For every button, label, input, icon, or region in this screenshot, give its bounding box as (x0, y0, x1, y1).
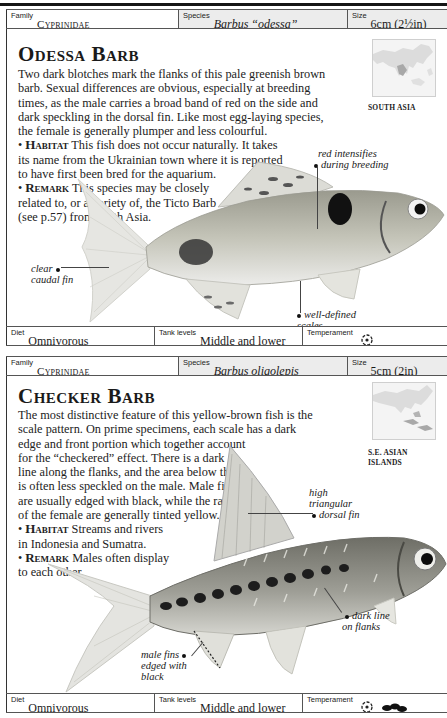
tank-levels-value: Middle and lower (200, 701, 285, 712)
species-cell: Species Barbus “odessa” (178, 10, 347, 28)
temperament-label: Temperament (307, 328, 353, 337)
temperament-cell: Temperament (302, 327, 447, 345)
peaceful-fish-icon (361, 334, 373, 345)
checker-barb-illustration (44, 446, 447, 696)
family-label: Family (11, 11, 33, 20)
tank-levels-label: Tank levels (159, 695, 196, 704)
species-label: Species (183, 358, 210, 367)
description-line: The most distinctive feature of this yel… (18, 408, 313, 422)
description-line: dark speckling in the dorsal fin. Like m… (18, 110, 325, 124)
family-label: Family (11, 358, 33, 367)
species-value: Barbus “odessa” (214, 17, 298, 28)
size-label: Size (352, 11, 367, 20)
callout-dorsal-fin: high triangular dorsal fin (309, 487, 360, 520)
leader-dot-icon (345, 615, 349, 619)
diet-cell: Diet Omnivorous (6, 327, 154, 345)
family-value: Cyprinidae (37, 365, 89, 375)
shoal-fish-icon (381, 703, 409, 712)
map-region-label: SOUTH ASIA (368, 103, 416, 113)
species-title: Odessa Barb (18, 42, 139, 67)
peaceful-fish-icon (361, 701, 373, 712)
callout-male-fins: male fins edged with black (141, 649, 189, 682)
leader-dot-icon (312, 514, 316, 518)
leader-dot-icon (297, 314, 301, 318)
description-line: the female is generally plumper and less… (18, 124, 325, 138)
species-cell: Species Barbus oligolepis (178, 357, 347, 375)
map-se-asia-icon (372, 382, 436, 440)
habitat-paragraph: • Habitat This fish does not occur natur… (18, 138, 325, 152)
care-bar: Diet Omnivorous Tank levels Middle and l… (6, 693, 447, 713)
callout-red-intensifies: red intensifies during breeding (311, 148, 389, 170)
diet-cell: Diet Omnivorous (6, 694, 154, 712)
callout-dark-line-flanks: dark line on flanks (342, 610, 390, 632)
description-line: times, as the male carries a broad band … (18, 96, 325, 110)
tank-levels-cell: Tank levels Middle and lower (154, 327, 302, 345)
care-bar: Diet Omnivorous Tank levels Middle and l… (6, 326, 447, 346)
description-line: scale pattern. On prime specimens, each … (18, 422, 313, 436)
family-value: Cyprinidae (37, 18, 89, 28)
leader-dot-icon (182, 654, 186, 658)
classification-bar: Family Cyprinidae Species Barbus “odessa… (6, 9, 447, 29)
diet-value: Omnivorous (28, 701, 88, 712)
diet-label: Diet (11, 695, 24, 704)
leader-line (317, 165, 318, 229)
diet-label: Diet (11, 328, 24, 337)
leader-line (61, 267, 109, 268)
leader-line (300, 281, 301, 313)
leader-dot-icon (56, 268, 60, 272)
tank-levels-value: Middle and lower (200, 334, 285, 345)
description-line: barb. Sexual differences are obvious, es… (18, 81, 325, 95)
diet-value: Omnivorous (28, 334, 88, 345)
leader-line (248, 513, 313, 514)
description-line: Two dark blotches mark the flanks of thi… (18, 67, 325, 81)
size-value: 5cm (2in) (371, 364, 418, 375)
size-value: 6cm (2½in) (371, 17, 427, 28)
habitat-keyword: Habitat (25, 137, 68, 152)
size-cell: Size 6cm (2½in) (347, 10, 447, 28)
temperament-label: Temperament (307, 695, 353, 704)
top-rule (0, 3, 447, 6)
family-cell: Family Cyprinidae (6, 357, 178, 375)
temperament-cell: Temperament (302, 694, 447, 712)
species-label: Species (183, 11, 210, 20)
tank-levels-cell: Tank levels Middle and lower (154, 694, 302, 712)
classification-bar: Family Cyprinidae Species Barbus oligole… (6, 356, 447, 376)
frame-border (6, 9, 7, 346)
map-south-asia-icon (372, 39, 436, 97)
odessa-barb-illustration (68, 157, 447, 332)
species-value: Barbus oligolepis (214, 364, 299, 375)
habitat-text: This fish does not occur naturally. It t… (71, 138, 277, 152)
species-title: Checker Barb (18, 384, 155, 409)
size-label: Size (352, 358, 367, 367)
tank-levels-label: Tank levels (159, 328, 196, 337)
family-cell: Family Cyprinidae (6, 10, 178, 28)
species-entry-odessa-barb: Family Cyprinidae Species Barbus “odessa… (6, 9, 447, 346)
species-entry-checker-barb: Family Cyprinidae Species Barbus oligole… (6, 356, 447, 713)
remark-keyword: Remark (25, 180, 69, 195)
frame-border (6, 356, 7, 713)
size-cell: Size 5cm (2in) (347, 357, 447, 375)
